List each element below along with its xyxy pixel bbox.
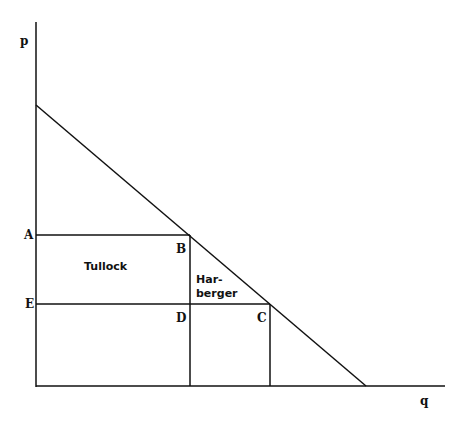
diagram-lines — [0, 0, 466, 425]
harberger-label-1: Har- — [196, 273, 223, 286]
welfare-loss-diagram: p q A B E D C Tullock Har- berger — [0, 0, 466, 425]
tullock-label: Tullock — [84, 260, 127, 273]
demand-curve — [36, 105, 366, 386]
point-D: D — [176, 311, 186, 325]
point-E: E — [25, 297, 34, 311]
point-A: A — [24, 228, 33, 242]
x-axis-label: q — [420, 394, 428, 408]
point-C: C — [257, 311, 267, 325]
harberger-label-2: berger — [196, 287, 238, 300]
point-B: B — [176, 242, 186, 256]
y-axis-label: p — [20, 34, 28, 48]
